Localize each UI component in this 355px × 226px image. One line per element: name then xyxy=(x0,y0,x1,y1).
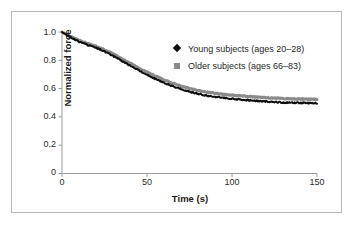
y-tick-label: 0 xyxy=(32,167,56,177)
x-tick-label: 100 xyxy=(222,177,242,187)
y-tick-label: 1.0 xyxy=(32,27,56,37)
x-tick-label: 150 xyxy=(307,177,327,187)
y-tick-label: 0.6 xyxy=(32,83,56,93)
legend-item-young: Young subjects (ages 20–28) xyxy=(172,40,304,57)
diamond-marker-icon xyxy=(172,43,183,54)
x-axis-title: Time (s) xyxy=(62,193,318,204)
legend-label: Older subjects (ages 66–83) xyxy=(188,61,301,71)
legend: Young subjects (ages 20–28) Older subjec… xyxy=(172,40,304,74)
y-tick-label: 0.2 xyxy=(32,139,56,149)
square-marker-icon xyxy=(172,60,183,71)
figure-container: 1.0 0.8 0.6 0.4 0.2 0 0 50 100 150 Norma… xyxy=(0,0,355,226)
y-tick-label: 0.8 xyxy=(32,55,56,65)
legend-item-older: Older subjects (ages 66–83) xyxy=(172,57,304,74)
x-tick-marks xyxy=(62,174,317,178)
legend-label: Young subjects (ages 20–28) xyxy=(188,44,304,54)
x-tick-label: 0 xyxy=(52,177,72,187)
y-axis-title: Normalized force xyxy=(62,20,74,116)
x-tick-label: 50 xyxy=(137,177,157,187)
y-tick-label: 0.4 xyxy=(32,111,56,121)
